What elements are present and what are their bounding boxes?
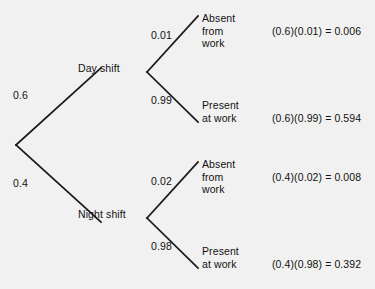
outcome-label-night-present: Present at work: [202, 245, 239, 270]
probability-tree-diagram: 0.6 Day shift 0.4 Night shift 0.01 Absen…: [0, 0, 375, 289]
equation-night-absent: (0.4)(0.02) = 0.008: [272, 171, 361, 184]
outcome-label-day-absent: Absent from work: [202, 12, 235, 50]
outcome-label-night-absent: Absent from work: [202, 158, 235, 196]
probability-label-night-absent: 0.02: [151, 175, 172, 188]
probability-label-night-present: 0.98: [151, 240, 172, 253]
probability-label-day-shift: 0.6: [13, 89, 28, 102]
probability-label-day-present: 0.99: [151, 94, 172, 107]
node-label-day-shift: Day shift: [78, 62, 120, 75]
node-label-night-shift: Night shift: [78, 208, 126, 221]
probability-label-night-shift: 0.4: [13, 177, 28, 190]
equation-night-present: (0.4)(0.98) = 0.392: [272, 258, 361, 271]
branch-line-day-absent: [147, 16, 198, 72]
branch-line-day-shift: [16, 68, 101, 145]
outcome-label-day-present: Present at work: [202, 99, 239, 124]
tree-branch-lines: [0, 0, 375, 289]
equation-day-present: (0.6)(0.99) = 0.594: [272, 112, 361, 125]
probability-label-day-absent: 0.01: [151, 29, 172, 42]
branch-line-night-absent: [147, 162, 198, 218]
equation-day-absent: (0.6)(0.01) = 0.006: [272, 25, 361, 38]
